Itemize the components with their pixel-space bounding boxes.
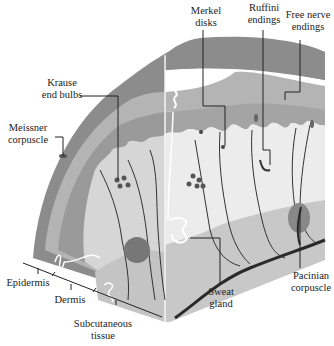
ruffini-label-line1: Ruffini bbox=[242, 2, 286, 14]
dermis-label-line1: Dermis bbox=[48, 294, 92, 306]
subcutaneous-label-line2: tissue bbox=[68, 330, 138, 342]
sweat-gland-label-line2: gland bbox=[204, 298, 238, 310]
ruffini-label-line2: endings bbox=[242, 14, 286, 26]
sweat-gland-label-line1: Sweat bbox=[204, 286, 238, 298]
sweat-gland-label: Sweat gland bbox=[204, 286, 238, 310]
pacinian-label-line1: Pacinian bbox=[288, 270, 334, 282]
ruffini-label: Ruffini endings bbox=[242, 2, 286, 26]
subcutaneous-label-line1: Subcutaneous bbox=[68, 318, 138, 330]
pacinian-corpuscle-left bbox=[124, 237, 150, 263]
subcutaneous-label: Subcutaneous tissue bbox=[68, 318, 138, 342]
pacinian-label: Pacinian corpuscle bbox=[288, 270, 334, 294]
free-nerve-label: Free nerve endings bbox=[282, 9, 334, 33]
epidermis-label-line1: Epidermis bbox=[2, 277, 54, 289]
merkel-label-line2: disks bbox=[184, 17, 228, 29]
meissner-label: Meissner corpuscle bbox=[2, 122, 54, 146]
free-nerve-label-line2: endings bbox=[282, 21, 334, 33]
krause-label: Krause end bulbs bbox=[36, 77, 88, 101]
krause-label-line2: end bulbs bbox=[36, 89, 88, 101]
krause-label-line1: Krause bbox=[36, 77, 88, 89]
meissner-label-line1: Meissner bbox=[2, 122, 54, 134]
merkel-label-line1: Merkel bbox=[184, 5, 228, 17]
dermis-label: Dermis bbox=[48, 294, 92, 306]
meissner-label-line2: corpuscle bbox=[2, 134, 54, 146]
epidermis-label: Epidermis bbox=[2, 277, 54, 289]
merkel-label: Merkel disks bbox=[184, 5, 228, 29]
free-nerve-label-line1: Free nerve bbox=[282, 9, 334, 21]
pacinian-label-line2: corpuscle bbox=[288, 282, 334, 294]
